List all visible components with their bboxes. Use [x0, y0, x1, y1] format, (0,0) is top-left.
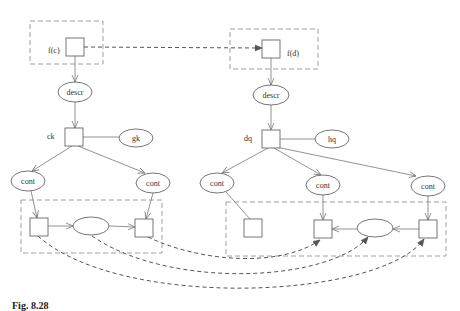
- label-hq: hq: [328, 135, 336, 144]
- node-lower-left-ellipse: [73, 217, 109, 235]
- edge-ell-rbox: [109, 226, 135, 227]
- node-lower-right-box-3: [419, 220, 437, 238]
- edge-cont1-box: [31, 191, 37, 218]
- edge-ck-cont1: [32, 146, 72, 171]
- label-fc: f(c): [48, 46, 60, 55]
- edge-ck-cont2: [78, 146, 145, 173]
- label-cont-right-1: cont: [210, 179, 225, 188]
- node-lower-right-box-1: [244, 219, 262, 237]
- label-cont-left-2: cont: [146, 179, 161, 188]
- node-fc: [66, 38, 84, 56]
- mapping-edge-fc-fd: [84, 47, 262, 48]
- node-lower-right-ellipse: [357, 219, 393, 237]
- edge-dq-cont2: [274, 148, 321, 175]
- label-cont-right-3: cont: [421, 182, 436, 191]
- node-fd: [262, 40, 280, 58]
- edge-cont-r1-box: [226, 192, 250, 219]
- mapping-edge-3: [38, 236, 424, 288]
- node-lower-right-box-2: [314, 220, 332, 238]
- node-lower-left-box-1: [30, 218, 48, 236]
- mapping-edge-2: [92, 236, 368, 274]
- label-dq: dq: [244, 134, 252, 143]
- edge-cont2-box: [146, 193, 153, 219]
- node-lower-left-box-2: [135, 219, 153, 237]
- node-dq: [262, 130, 280, 148]
- label-cont-left-1: cont: [21, 177, 36, 186]
- label-fd: f(d): [287, 49, 299, 58]
- label-gk: gk: [132, 134, 140, 143]
- node-ck: [65, 128, 83, 146]
- figure-caption: Fig. 8.28: [12, 300, 48, 311]
- edge-dq-cont1: [222, 148, 268, 173]
- label-ck: ck: [47, 132, 55, 141]
- label-descr-left: descr: [67, 88, 84, 97]
- mapping-edge-1: [148, 237, 320, 259]
- label-cont-right-2: cont: [316, 181, 331, 190]
- label-descr-right: descr: [263, 91, 280, 100]
